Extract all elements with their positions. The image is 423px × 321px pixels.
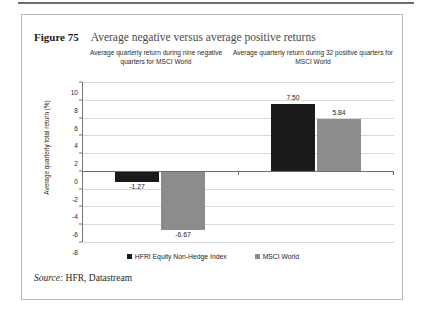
y-axis-tick-label: 6 bbox=[74, 124, 78, 131]
legend-swatch-icon bbox=[255, 254, 260, 259]
source-label: Source: bbox=[34, 273, 63, 283]
bar-value-label: -6.67 bbox=[175, 231, 191, 238]
y-axis-tick-label: 4 bbox=[74, 142, 78, 149]
page-title: Average negative versus average positive… bbox=[91, 31, 316, 43]
gridline bbox=[82, 224, 394, 225]
gridline bbox=[82, 242, 394, 243]
group-header-negative: Average quarterly return during nine neg… bbox=[80, 48, 232, 66]
legend-swatch-icon bbox=[127, 254, 132, 259]
chart-legend: HFRI Equity Non-Hedge IndexMSCI World bbox=[22, 253, 404, 260]
y-axis-tick-label: 8 bbox=[74, 106, 78, 113]
group-header-positive: Average quarterly return during 32 posit… bbox=[232, 48, 394, 66]
figure-number: Figure 75 bbox=[34, 31, 79, 43]
chart-plot-wrapper: Average quarterly total return (%) 10864… bbox=[22, 72, 404, 262]
legend-label: MSCI World bbox=[263, 253, 300, 260]
y-axis-tick-label: 0 bbox=[74, 177, 78, 184]
y-axis-title: Average quarterly total return (%) bbox=[43, 83, 50, 213]
plot-area: -1.27-6.677.505.84 bbox=[82, 82, 394, 242]
y-axis-tick-label: -6 bbox=[72, 231, 78, 238]
top-horizontal-rule bbox=[18, 2, 414, 4]
gridline bbox=[82, 82, 394, 83]
chart-bar bbox=[317, 119, 361, 171]
legend-item[interactable]: HFRI Equity Non-Hedge Index bbox=[127, 253, 227, 260]
group-headers: Average quarterly return during nine neg… bbox=[80, 48, 394, 66]
gridline bbox=[82, 100, 394, 101]
chart-bar bbox=[271, 104, 315, 171]
figure-heading: Figure 75Average negative versus average… bbox=[34, 27, 316, 45]
y-axis-line bbox=[82, 82, 83, 242]
source-value: HFR, Datastream bbox=[63, 273, 132, 283]
source-note: Source: HFR, Datastream bbox=[34, 273, 132, 283]
category-separator-tick bbox=[238, 171, 239, 175]
axis-end-tick bbox=[393, 171, 394, 175]
chart-bar bbox=[115, 171, 159, 182]
legend-label: HFRI Equity Non-Hedge Index bbox=[135, 253, 227, 260]
y-axis-tick-label: 10 bbox=[71, 89, 78, 96]
y-axis-tick-label: 2 bbox=[74, 160, 78, 167]
legend-item[interactable]: MSCI World bbox=[255, 253, 300, 260]
bar-value-label: 5.84 bbox=[332, 109, 345, 116]
bar-value-label: 7.50 bbox=[286, 94, 299, 101]
y-axis-tick-label: -2 bbox=[72, 195, 78, 202]
y-axis-tick-label: -4 bbox=[72, 213, 78, 220]
y-axis-tick-labels: 1086420-2-4-6-8 bbox=[56, 82, 78, 242]
bar-value-label: -1.27 bbox=[129, 183, 145, 190]
figure-container: Figure 75Average negative versus average… bbox=[21, 14, 403, 300]
gridline bbox=[82, 206, 394, 207]
chart-bar bbox=[161, 171, 205, 230]
